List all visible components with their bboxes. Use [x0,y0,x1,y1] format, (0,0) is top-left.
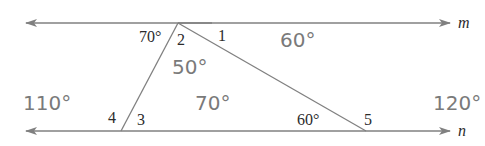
parallel-lines-triangle-diagram: m n 70° 60° 1 2 3 4 5 60° 50° 70° 110° 1… [0,0,485,146]
given-angle-70: 70° [139,28,161,45]
angle-label-2: 2 [177,31,185,48]
answer-angle-4: 110° [23,91,71,115]
angle-label-3: 3 [137,111,145,128]
line-n-label: n [458,122,466,139]
answer-angle-3: 70° [195,91,230,115]
angle-label-4: 4 [108,109,116,126]
line-m-label: m [458,14,470,31]
angle-label-1: 1 [218,27,226,44]
diagram-canvas: m n 70° 60° 1 2 3 4 5 60° 50° 70° 110° 1… [0,0,485,146]
angle-label-5: 5 [364,111,372,128]
given-angle-60: 60° [297,111,319,128]
answer-angle-1: 60° [280,28,315,52]
answer-angle-2: 50° [172,55,207,79]
answer-angle-5: 120° [433,91,481,115]
